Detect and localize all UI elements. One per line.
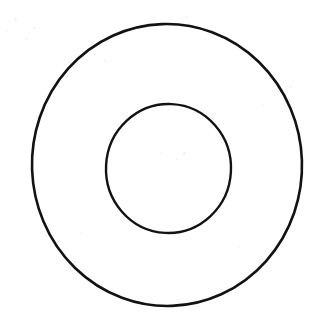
figure-canvas: Concentric circles (annulus / washer out… bbox=[0, 0, 330, 328]
inner-circle bbox=[103, 101, 235, 236]
annulus-drawing bbox=[0, 0, 330, 328]
outer-circle bbox=[27, 19, 307, 310]
